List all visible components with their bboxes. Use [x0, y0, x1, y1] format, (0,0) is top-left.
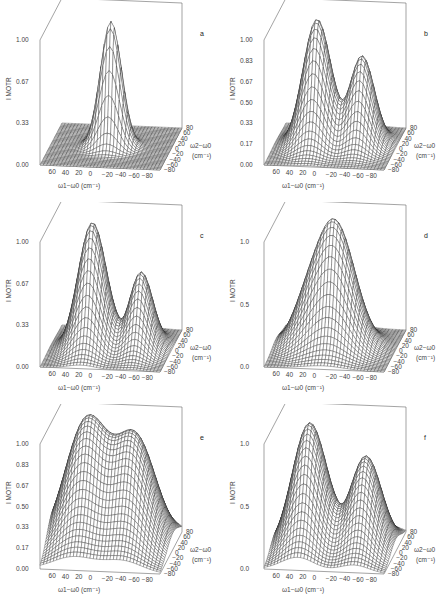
x-axis-label: ω1−ω0 (cm⁻¹) [282, 385, 324, 392]
y-axis-label: ω2−ω0 [190, 547, 211, 554]
z-tick-label: 0.83 [240, 58, 253, 65]
z-tick-label: 1.0 [240, 441, 249, 448]
x-tick-label: 40 [286, 170, 293, 177]
x-tick-label: −40 [339, 374, 350, 381]
y-axis-unit: (cm⁻¹) [416, 355, 435, 362]
x-tick-label: 20 [299, 574, 306, 581]
x-axis-label: ω1−ω0 (cm⁻¹) [58, 385, 100, 392]
z-tick-label: 1.0 [240, 239, 249, 246]
x-tick-label: −20 [102, 374, 113, 381]
x-tick-label: −20 [102, 576, 113, 583]
z-tick-label: 0.17 [240, 141, 253, 148]
y-axis-unit: (cm⁻¹) [416, 153, 435, 160]
z-tick-label: 0.00 [16, 566, 29, 573]
surface-plot-a: 0.000.330.671.00I MOTR6040200−20−40−60−8… [0, 0, 223, 200]
z-tick-label: 1.00 [240, 37, 253, 44]
x-tick-label: −60 [353, 375, 364, 382]
x-tick-label: −80 [142, 173, 153, 180]
z-tick-label: 1.00 [16, 37, 29, 44]
x-tick-label: 40 [62, 574, 69, 581]
x-tick-label: 0 [89, 575, 93, 582]
y-axis-unit: (cm⁻¹) [192, 153, 211, 160]
x-tick-label: −20 [326, 374, 337, 381]
z-tick-label: 0.17 [16, 545, 29, 552]
x-tick-label: −20 [326, 172, 337, 179]
y-axis-label: ω2−ω0 [190, 345, 211, 352]
z-axis-label: I MOTR [230, 279, 237, 302]
z-axis-label: I MOTR [6, 279, 13, 302]
x-tick-label: 0 [89, 171, 93, 178]
z-tick-label: 0.00 [16, 364, 29, 371]
z-tick-label: 0.83 [16, 462, 29, 469]
x-tick-label: 0 [313, 171, 317, 178]
panel-letter: a [200, 30, 204, 37]
z-tick-label: 0.0 [240, 566, 249, 573]
z-tick-label: 0.67 [16, 79, 29, 86]
x-tick-label: 60 [273, 371, 280, 378]
z-tick-label: 0.33 [240, 120, 253, 127]
z-tick-label: 0.33 [16, 120, 29, 127]
x-tick-label: −60 [353, 173, 364, 180]
x-tick-label: −60 [129, 375, 140, 382]
y-axis-unit: (cm⁻¹) [192, 355, 211, 362]
surface-plot-c: 0.000.330.671.00I MOTR6040200−20−40−60−8… [0, 202, 223, 402]
surface-plot-f: 0.00.51.0I MOTR6040200−20−40−60−80ω1−ω0 … [224, 404, 447, 604]
x-tick-label: −80 [366, 173, 377, 180]
y-axis-label: ω2−ω0 [190, 143, 211, 150]
y-axis-label: ω2−ω0 [414, 345, 435, 352]
y-axis-label: ω2−ω0 [414, 143, 435, 150]
panel-letter: d [424, 232, 428, 239]
x-tick-label: 60 [49, 371, 56, 378]
x-tick-label: 60 [49, 573, 56, 580]
z-tick-label: 0.0 [240, 364, 249, 371]
x-tick-label: 40 [62, 372, 69, 379]
x-tick-label: 60 [273, 169, 280, 176]
y-axis-label: ω2−ω0 [414, 547, 435, 554]
y-tick-label: −80 [164, 167, 175, 174]
z-axis-label: I MOTR [230, 77, 237, 100]
z-tick-label: 0.33 [16, 322, 29, 329]
z-tick-label: 0.67 [16, 281, 29, 288]
x-tick-label: −40 [115, 374, 126, 381]
z-axis-label: I MOTR [6, 481, 13, 504]
surface-plot-e: 0.000.170.330.500.670.831.00I MOTR604020… [0, 404, 223, 604]
x-tick-label: −60 [129, 577, 140, 584]
x-axis-label: ω1−ω0 (cm⁻¹) [282, 587, 324, 594]
x-tick-label: −20 [326, 576, 337, 583]
x-tick-label: −80 [142, 577, 153, 584]
z-tick-label: 0.67 [16, 483, 29, 490]
panel-letter: e [200, 434, 204, 441]
x-tick-label: 20 [299, 372, 306, 379]
x-tick-label: 20 [75, 170, 82, 177]
y-axis-unit: (cm⁻¹) [192, 557, 211, 564]
x-tick-label: −40 [339, 172, 350, 179]
x-tick-label: −80 [366, 577, 377, 584]
z-tick-label: 0.00 [16, 162, 29, 169]
x-axis-label: ω1−ω0 (cm⁻¹) [58, 587, 100, 594]
panel-letter: b [424, 30, 428, 37]
panel-letter: c [200, 232, 204, 239]
x-tick-label: 0 [89, 373, 93, 380]
x-tick-label: 40 [62, 170, 69, 177]
z-tick-label: 0.5 [240, 504, 249, 511]
x-axis-label: ω1−ω0 (cm⁻¹) [282, 183, 324, 190]
x-tick-label: −80 [366, 375, 377, 382]
x-tick-label: 40 [286, 372, 293, 379]
x-tick-label: 60 [273, 573, 280, 580]
y-tick-label: −80 [388, 571, 399, 578]
y-tick-label: −80 [164, 571, 175, 578]
x-tick-label: −60 [129, 173, 140, 180]
x-tick-label: −80 [142, 375, 153, 382]
x-tick-label: −40 [115, 576, 126, 583]
y-tick-label: −80 [388, 369, 399, 376]
z-tick-label: 0.50 [240, 100, 253, 107]
x-tick-label: 40 [286, 574, 293, 581]
x-tick-label: −40 [115, 172, 126, 179]
x-tick-label: 60 [49, 169, 56, 176]
z-tick-label: 1.00 [16, 441, 29, 448]
x-tick-label: −20 [102, 172, 113, 179]
x-tick-label: 20 [75, 372, 82, 379]
x-tick-label: 20 [75, 574, 82, 581]
z-tick-label: 0.67 [240, 79, 253, 86]
x-tick-label: 20 [299, 170, 306, 177]
